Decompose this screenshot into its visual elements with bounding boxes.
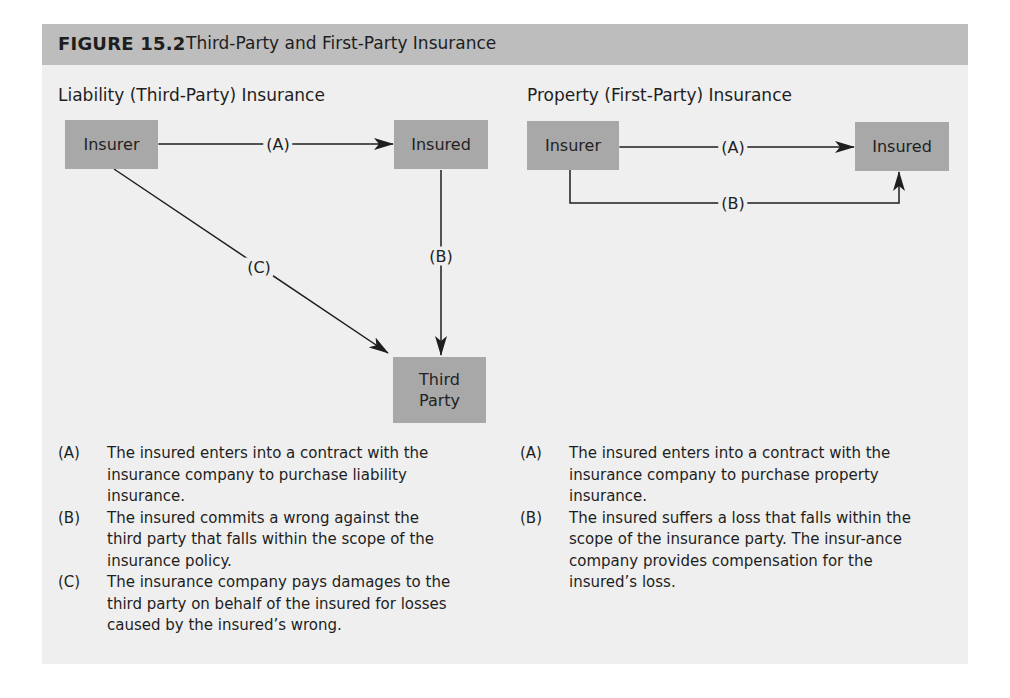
- legend-key: (A): [58, 443, 107, 508]
- liability-edge-b-label: (B): [426, 247, 455, 266]
- legend-key: (A): [520, 443, 569, 508]
- legend-item: (A) The insured enters into a contract w…: [520, 443, 924, 508]
- legend-item: (B) The insured commits a wrong against …: [58, 508, 458, 573]
- third-party-node: Third Party: [393, 357, 486, 423]
- legend-item: (B) The insured suffers a loss that fall…: [520, 508, 924, 594]
- liability-edge-a-label: (A): [263, 135, 292, 154]
- liability-insured-node: Insured: [394, 120, 488, 169]
- property-insured-node: Insured: [855, 122, 949, 171]
- liability-legend: (A) The insured enters into a contract w…: [58, 443, 458, 637]
- legend-item: (C) The insurance company pays damages t…: [58, 572, 458, 637]
- property-edge-b-label: (B): [718, 194, 747, 213]
- legend-text: The insured enters into a contract with …: [107, 443, 458, 508]
- legend-text: The insurance company pays damages to th…: [107, 572, 458, 637]
- property-legend: (A) The insured enters into a contract w…: [520, 443, 924, 594]
- legend-item: (A) The insured enters into a contract w…: [58, 443, 458, 508]
- legend-text: The insured suffers a loss that falls wi…: [569, 508, 924, 594]
- legend-text: The insured commits a wrong against the …: [107, 508, 458, 573]
- legend-key: (B): [520, 508, 569, 594]
- figure-panel: FIGURE 15.2 Third-Party and First-Party …: [42, 24, 968, 664]
- property-edge-a-label: (A): [718, 138, 747, 157]
- liability-edge-c-label: (C): [245, 258, 273, 277]
- liability-insurer-node: Insurer: [65, 120, 158, 169]
- property-insurer-node: Insurer: [527, 121, 619, 170]
- legend-key: (C): [58, 572, 107, 637]
- legend-text: The insured enters into a contract with …: [569, 443, 924, 508]
- legend-key: (B): [58, 508, 107, 573]
